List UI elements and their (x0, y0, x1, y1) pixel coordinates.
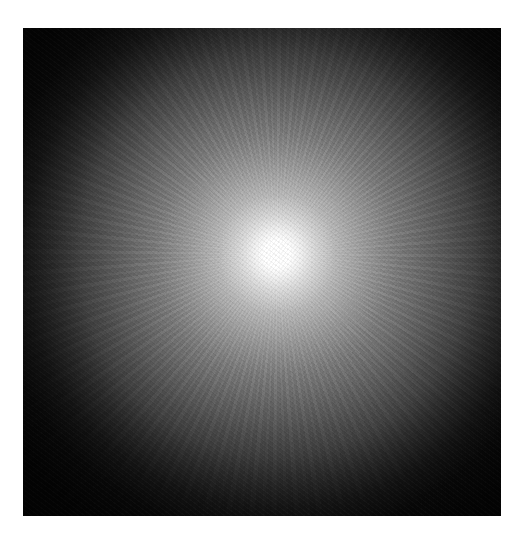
cropped-caption (0, 0, 522, 5)
edge-vignette (23, 28, 501, 516)
radial-glow-image (23, 28, 501, 516)
